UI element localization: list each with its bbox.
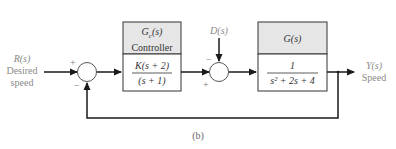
sum1-minus-sign: −: [74, 81, 80, 91]
plant-header-symbol: G(s): [258, 33, 327, 45]
summing-junction-2: [210, 63, 229, 82]
output-symbol: Y(s): [356, 60, 392, 72]
block-diagram-canvas: [0, 0, 396, 149]
sum1-plus-sign: +: [70, 58, 76, 68]
sum2-plus-sign: +: [203, 80, 209, 90]
plant-numerator: 1: [258, 60, 327, 72]
summing-junction-1: [78, 63, 97, 82]
plant-denominator: s² + 2s + 4: [258, 75, 327, 87]
input-label-line1: Desired: [4, 65, 40, 77]
figure-caption: (b): [180, 130, 216, 142]
controller-denominator: (s + 1): [123, 75, 181, 87]
controller-header-text: Gc(s) Controller: [123, 26, 181, 54]
controller-numerator: K(s + 2): [123, 60, 181, 72]
output-label-text: Speed: [356, 72, 392, 84]
controller-symbol: Gc(s): [123, 26, 181, 42]
output-label: Y(s) Speed: [356, 60, 392, 84]
controller-name: Controller: [123, 42, 181, 54]
disturbance-symbol: D(s): [204, 25, 234, 37]
input-symbol: R(s): [4, 53, 40, 65]
input-label-line2: speed: [4, 77, 40, 89]
input-label: R(s) Desired speed: [4, 53, 40, 89]
sum2-minus-sign: −: [206, 55, 212, 65]
